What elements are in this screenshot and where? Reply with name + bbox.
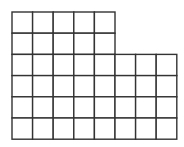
- grid-cell: [115, 118, 136, 139]
- grid-cell: [74, 76, 95, 97]
- grid-cell: [74, 12, 95, 33]
- grid-cell: [94, 76, 115, 97]
- grid-cell: [115, 54, 136, 75]
- grid-cell: [74, 118, 95, 139]
- grid-cell: [94, 118, 115, 139]
- grid-cell: [136, 118, 157, 139]
- grid-cell: [12, 97, 33, 118]
- grid-cell: [33, 97, 54, 118]
- grid-cell: [94, 12, 115, 33]
- grid-cell: [74, 33, 95, 54]
- grid-cell: [94, 54, 115, 75]
- grid-cell: [115, 97, 136, 118]
- grid-cell: [136, 97, 157, 118]
- grid-cell: [94, 33, 115, 54]
- grid-cell: [33, 33, 54, 54]
- grid-diagram: [0, 0, 184, 147]
- grid-cell: [74, 54, 95, 75]
- grid-cell: [136, 54, 157, 75]
- grid-cell: [53, 76, 74, 97]
- grid-cell: [12, 33, 33, 54]
- grid-cell: [33, 118, 54, 139]
- grid-cell: [156, 118, 177, 139]
- grid-cell: [156, 54, 177, 75]
- grid-cell: [33, 54, 54, 75]
- grid-cell: [156, 97, 177, 118]
- grid-cell: [94, 97, 115, 118]
- grid-cell: [74, 97, 95, 118]
- grid-cell: [115, 76, 136, 97]
- grid-cell: [12, 12, 33, 33]
- grid-cell: [53, 97, 74, 118]
- grid-cell: [33, 12, 54, 33]
- grid-cell: [53, 54, 74, 75]
- grid-cell: [136, 76, 157, 97]
- grid-cell: [12, 76, 33, 97]
- grid-cell: [12, 54, 33, 75]
- grid-cell: [33, 76, 54, 97]
- grid-cell: [53, 12, 74, 33]
- grid-cell: [53, 33, 74, 54]
- grid-cell: [156, 76, 177, 97]
- grid-cell: [53, 118, 74, 139]
- grid-cell: [12, 118, 33, 139]
